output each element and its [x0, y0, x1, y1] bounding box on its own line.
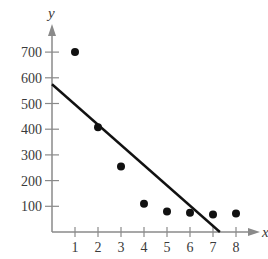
y-axis-arrow-icon — [48, 24, 56, 36]
y-tick-label: 700 — [21, 45, 42, 60]
tick-labels: 12345678100200300400500600700 — [21, 45, 240, 255]
y-axis-label: y — [46, 5, 55, 21]
data-point — [140, 200, 148, 208]
x-tick-label: 6 — [187, 240, 194, 255]
x-tick-label: 5 — [164, 240, 171, 255]
x-tick-label: 3 — [118, 240, 125, 255]
y-tick-label: 400 — [21, 122, 42, 137]
ticks — [45, 52, 236, 237]
data-point — [163, 207, 171, 215]
x-tick-label: 2 — [95, 240, 102, 255]
data-point — [71, 48, 79, 56]
data-point — [117, 162, 125, 170]
y-tick-label: 200 — [21, 174, 42, 189]
y-tick-label: 600 — [21, 71, 42, 86]
fit-line — [52, 84, 220, 232]
x-tick-label: 7 — [210, 240, 217, 255]
x-tick-label: 1 — [72, 240, 79, 255]
data-points — [71, 48, 240, 218]
data-point — [186, 209, 194, 217]
x-axis-label: x — [261, 224, 268, 240]
y-tick-label: 100 — [21, 199, 42, 214]
scatter-chart: 12345678100200300400500600700 y x — [0, 0, 268, 259]
y-tick-label: 300 — [21, 148, 42, 163]
regression-line — [52, 84, 220, 232]
data-point — [94, 123, 102, 131]
data-point — [209, 211, 217, 219]
axes — [48, 24, 260, 236]
x-tick-label: 8 — [233, 240, 240, 255]
x-tick-label: 4 — [141, 240, 148, 255]
data-point — [232, 209, 240, 217]
y-tick-label: 500 — [21, 97, 42, 112]
x-axis-arrow-icon — [248, 228, 260, 236]
